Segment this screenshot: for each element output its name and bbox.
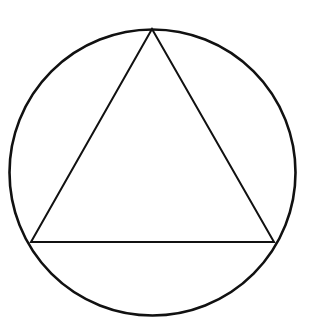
diagram-canvas: Equilateral triangle inscribed in a circ…	[0, 0, 313, 331]
inscribed-triangle	[31, 29, 274, 242]
circumscribed-circle	[10, 30, 296, 316]
circle-triangle-diagram	[0, 0, 313, 331]
